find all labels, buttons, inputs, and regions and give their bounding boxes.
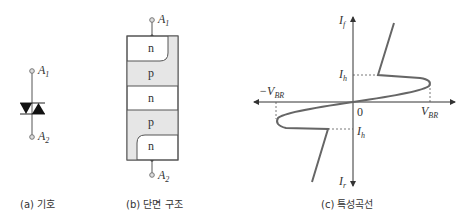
- label-ih-lower: Ih: [357, 124, 365, 140]
- origin-label: 0: [357, 105, 363, 120]
- axis-label-if: If: [339, 13, 345, 29]
- axis-label-ir: Ir: [339, 174, 346, 190]
- caption-c: (c) 특성곡선: [321, 196, 373, 211]
- label-ih-upper: Ih: [339, 67, 347, 83]
- label-neg-v-br: −VBR: [259, 84, 284, 100]
- characteristic-curve: [0, 0, 466, 220]
- label-v-br: VBR: [421, 104, 438, 120]
